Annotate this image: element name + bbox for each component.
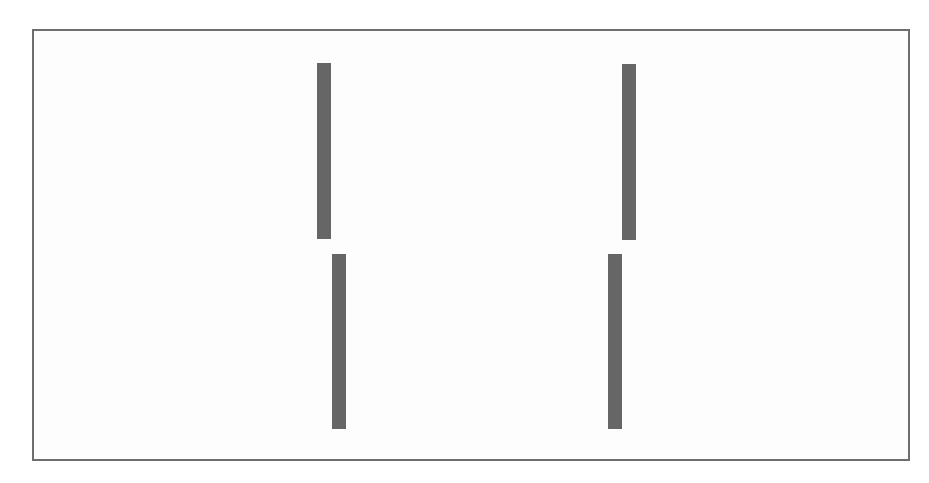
bar-top-left <box>317 63 331 239</box>
bar-bottom-left <box>332 254 346 429</box>
bar-bottom-right <box>608 254 622 429</box>
diagram-frame <box>32 29 910 461</box>
bar-top-right <box>622 64 636 240</box>
